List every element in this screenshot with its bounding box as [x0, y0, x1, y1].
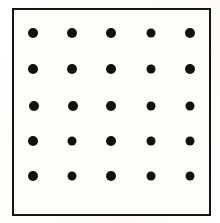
- grid-dot: [68, 101, 78, 111]
- grid-dot: [186, 102, 195, 111]
- grid-dot: [147, 137, 156, 146]
- grid-dot: [186, 172, 195, 181]
- grid-dot: [67, 28, 77, 38]
- dot-grid: [14, 10, 209, 214]
- grid-dot: [185, 28, 195, 38]
- grid-dot: [29, 101, 39, 111]
- grid-dot: [147, 65, 156, 74]
- grid-dot: [147, 172, 156, 181]
- figure-border-frame: [12, 8, 211, 216]
- grid-dot: [28, 28, 38, 38]
- grid-dot: [147, 102, 156, 111]
- grid-dot: [106, 101, 116, 111]
- grid-dot: [28, 136, 38, 146]
- grid-dot: [106, 64, 116, 74]
- grid-dot: [106, 28, 116, 38]
- grid-dot: [28, 171, 38, 181]
- grid-dot: [106, 171, 116, 181]
- grid-dot: [67, 64, 77, 74]
- grid-dot: [185, 64, 195, 74]
- grid-dot: [68, 137, 77, 146]
- grid-dot: [28, 64, 38, 74]
- grid-dot: [147, 29, 156, 38]
- grid-dot: [106, 136, 116, 146]
- grid-dot: [68, 172, 77, 181]
- grid-dot: [186, 137, 195, 146]
- figure-canvas: [0, 0, 220, 223]
